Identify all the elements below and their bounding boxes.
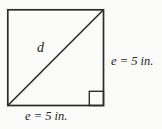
bottom-side-label: e = 5 in. (25, 110, 67, 123)
geometry-figure: d e = 5 in. e = 5 in. (0, 0, 162, 129)
right-angle-marker (89, 91, 103, 105)
diagonal-label: d (37, 41, 44, 55)
right-side-label: e = 5 in. (111, 55, 153, 68)
